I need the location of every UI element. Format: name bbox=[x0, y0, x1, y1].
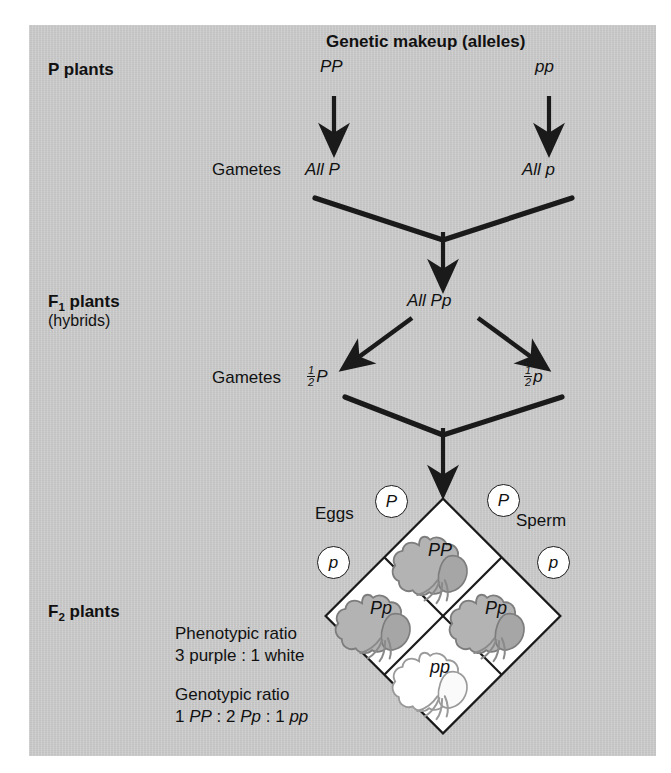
f1-genotype: All Pp bbox=[407, 291, 451, 310]
phenotypic-ratio-heading: Phenotypic ratio bbox=[175, 624, 297, 643]
f1-gamete-right-allele: p bbox=[533, 367, 542, 386]
genotypic-ratio-heading: Genotypic ratio bbox=[175, 685, 289, 704]
f1-rest: plants bbox=[65, 292, 120, 311]
gametes-label-p: Gametes bbox=[212, 160, 281, 179]
f1-gamete-right: 12p bbox=[524, 366, 543, 389]
gr-part-2: : 2 bbox=[212, 707, 240, 726]
sperm-allele-circle-p: p bbox=[537, 546, 570, 579]
fraction-one-half-right: 12 bbox=[524, 365, 532, 388]
sperm-label: Sperm bbox=[516, 511, 566, 530]
egg-allele-circle-P: P bbox=[375, 485, 408, 518]
gametes-label-f1: Gametes bbox=[212, 368, 281, 387]
f2-subscript: 2 bbox=[58, 611, 64, 623]
figure-panel bbox=[29, 25, 656, 756]
egg-allele-circle-p: p bbox=[317, 546, 350, 579]
gr-part-4: : 1 bbox=[261, 707, 289, 726]
f1-letter: F bbox=[48, 292, 58, 311]
p-genotype-left: PP bbox=[320, 57, 343, 76]
generation-label-f1: F1 plants bbox=[48, 292, 120, 311]
f1-gamete-left: 12P bbox=[307, 366, 327, 389]
genetics-figure: Genetic makeup (alleles) P plants PP pp … bbox=[0, 0, 671, 773]
punnett-cell-genotype-top: PP bbox=[428, 540, 452, 560]
gr-part-5: pp bbox=[289, 707, 308, 726]
f2-letter: F bbox=[48, 602, 58, 621]
p-gamete-left: All P bbox=[305, 160, 340, 179]
genotypic-ratio-value: 1 PP : 2 Pp : 1 pp bbox=[175, 707, 308, 726]
generation-label-f2: F2 plants bbox=[48, 602, 120, 621]
generation-sublabel-f1: (hybrids) bbox=[48, 312, 110, 330]
figure-title: Genetic makeup (alleles) bbox=[326, 32, 525, 51]
f2-rest: plants bbox=[65, 602, 120, 621]
fraction-one-half-left: 12 bbox=[307, 365, 315, 388]
gr-part-1: PP bbox=[189, 707, 212, 726]
eggs-label: Eggs bbox=[315, 504, 354, 523]
punnett-cell-genotype-right: Pp bbox=[485, 598, 507, 618]
gr-part-0: 1 bbox=[175, 707, 189, 726]
p-gamete-right: All p bbox=[522, 160, 555, 179]
punnett-cell-genotype-bottom: pp bbox=[430, 657, 450, 677]
f1-gamete-left-allele: P bbox=[316, 367, 327, 386]
p-genotype-right: pp bbox=[535, 57, 554, 76]
generation-label-p: P plants bbox=[48, 60, 114, 79]
phenotypic-ratio-value: 3 purple : 1 white bbox=[175, 646, 304, 665]
punnett-cell-genotype-left: Pp bbox=[370, 598, 392, 618]
gr-part-3: Pp bbox=[240, 707, 261, 726]
